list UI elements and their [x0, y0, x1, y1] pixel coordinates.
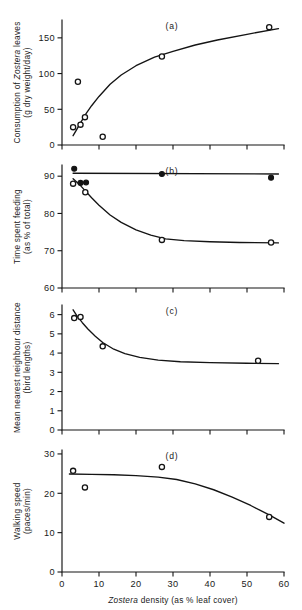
data-point — [71, 181, 76, 186]
data-point — [83, 190, 88, 195]
panel-b: 60708090(b)Time spent feeding(as % of to… — [12, 165, 284, 293]
y-axis-title-line2: (bird lengths) — [22, 342, 32, 394]
data-point — [82, 485, 87, 490]
figure-container: 050100150(a)Consumption of Zostera leave… — [0, 0, 302, 610]
data-point — [267, 514, 272, 519]
data-point — [71, 125, 76, 130]
panel-label: (a) — [166, 21, 179, 31]
data-point — [256, 358, 261, 363]
y-tick-label: 50 — [44, 105, 55, 115]
y-tick-label: 3 — [49, 368, 55, 378]
x-tick-label: 40 — [204, 579, 215, 589]
data-point — [159, 464, 164, 469]
y-axis-title: Time spent feeding(as % of total) — [12, 189, 32, 264]
data-point — [75, 79, 80, 84]
y-axis-title-line2: (paces/min) — [22, 488, 32, 534]
y-tick-label: 60 — [44, 283, 55, 293]
x-tick-label: 20 — [130, 579, 141, 589]
data-point — [100, 344, 105, 349]
data-point — [159, 171, 164, 176]
x-axis-title: Zostera density (as % leaf cover) — [107, 595, 238, 605]
y-tick-label: 0 — [49, 567, 55, 577]
panel-d: 01020300102030405060(d)Walking speed(pac… — [12, 449, 290, 588]
data-point — [84, 180, 89, 185]
fit-curve — [73, 179, 278, 243]
y-tick-label: 10 — [44, 528, 55, 538]
y-tick-label: 150 — [38, 33, 55, 43]
data-point — [159, 237, 164, 242]
data-point — [71, 468, 76, 473]
fit-curve — [69, 474, 284, 523]
panel-label: (b) — [166, 166, 179, 176]
data-point — [159, 54, 164, 59]
y-tick-label: 2 — [49, 387, 55, 397]
panel-axes — [62, 165, 284, 288]
data-point — [100, 134, 105, 139]
y-axis-title-line1: Walking speed — [12, 482, 22, 539]
multi-panel-scatter-figure: 050100150(a)Consumption of Zostera leave… — [0, 0, 302, 610]
y-axis-title-line2: (as % of total) — [22, 199, 32, 254]
y-tick-label: 5 — [49, 329, 55, 339]
panel-axes — [62, 20, 284, 145]
y-tick-label: 70 — [44, 246, 55, 256]
panel-a: 050100150(a)Consumption of Zostera leave… — [12, 20, 284, 150]
panel-c: 0123456(c)Mean nearest neighbour distanc… — [12, 302, 284, 435]
data-point — [72, 315, 77, 320]
data-point — [268, 240, 273, 245]
panel-axes — [62, 450, 284, 572]
data-point — [269, 175, 274, 180]
y-tick-label: 100 — [38, 69, 55, 79]
x-tick-label: 10 — [93, 579, 104, 589]
data-point — [82, 115, 87, 120]
y-tick-label: 4 — [49, 348, 55, 358]
y-tick-label: 0 — [49, 425, 55, 435]
y-tick-label: 1 — [49, 406, 55, 416]
y-tick-label: 80 — [44, 209, 55, 219]
y-axis-title: Mean nearest neighbour distance(bird len… — [12, 302, 32, 433]
y-axis-title-line1: Time spent feeding — [12, 189, 22, 264]
y-axis-title: Consumption of Zostera leaves(g dry weig… — [12, 21, 32, 143]
x-tick-label: 30 — [167, 579, 178, 589]
panel-label: (c) — [166, 306, 178, 316]
y-axis-title-line1: Consumption of Zostera leaves — [12, 21, 22, 143]
y-tick-label: 0 — [49, 140, 55, 150]
fit-curve — [73, 29, 278, 136]
data-point — [267, 25, 272, 30]
data-point — [72, 166, 77, 171]
y-axis-title-line1: Mean nearest neighbour distance — [12, 302, 22, 433]
y-tick-label: 30 — [44, 449, 55, 459]
y-axis-title-line2: (g dry weight/day) — [22, 47, 32, 117]
data-point — [78, 180, 83, 185]
y-axis-title: Walking speed(paces/min) — [12, 482, 32, 539]
panel-axes — [62, 305, 284, 430]
fit-curve — [73, 310, 278, 364]
y-tick-label: 20 — [44, 489, 55, 499]
y-tick-label: 6 — [49, 310, 55, 320]
x-tick-label: 50 — [241, 579, 252, 589]
data-point — [78, 122, 83, 127]
x-tick-label: 60 — [278, 579, 289, 589]
x-tick-label: 0 — [59, 579, 65, 589]
panel-label: (d) — [166, 451, 179, 461]
y-tick-label: 90 — [44, 171, 55, 181]
data-point — [78, 314, 83, 319]
